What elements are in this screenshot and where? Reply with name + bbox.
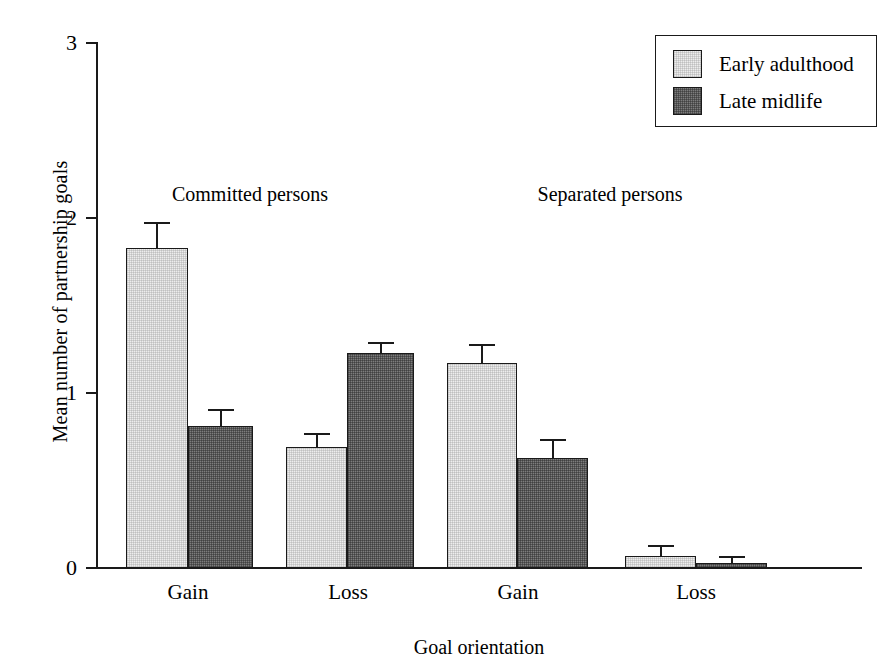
legend: Early adulthood Late midlife (655, 35, 877, 127)
error-bar-stem (156, 222, 158, 248)
bar-loss-3-series-0 (625, 556, 696, 568)
legend-item-early-adulthood: Early adulthood (673, 50, 854, 78)
bar-loss-1-series-0 (286, 447, 347, 568)
group-header-separated: Separated persons (480, 183, 740, 206)
error-bar-cap (208, 409, 234, 411)
error-bar-cap (144, 222, 170, 224)
bar-gain-2-series-0 (447, 363, 517, 568)
x-axis-category-label: Gain (448, 580, 588, 605)
bar-gain-2-series-1 (517, 458, 588, 568)
error-bar-cap (648, 545, 674, 547)
x-axis-category-label: Loss (278, 580, 418, 605)
bar-gain-0-series-1 (188, 426, 253, 568)
bar-gain-0-series-0 (126, 248, 188, 568)
error-bar-cap (469, 344, 495, 346)
chart-figure: 0123 Mean number of partnership goals Go… (0, 0, 892, 671)
group-header-committed: Committed persons (120, 183, 380, 206)
x-axis-category-label: Gain (118, 580, 258, 605)
error-bar-cap (368, 342, 394, 344)
legend-swatch-icon-early-adulthood (673, 50, 702, 78)
legend-swatch-icon-late-midlife (673, 87, 702, 115)
bar-loss-3-series-1 (696, 563, 767, 568)
bar-loss-1-series-1 (347, 353, 414, 568)
legend-label-late-midlife: Late midlife (719, 89, 822, 114)
x-axis-category-label: Loss (626, 580, 766, 605)
error-bar-stem (316, 433, 318, 447)
error-bar-cap (304, 433, 330, 435)
error-bar-stem (220, 409, 222, 427)
error-bar-stem (481, 344, 483, 363)
legend-item-late-midlife: Late midlife (673, 87, 822, 115)
error-bar-cap (540, 439, 566, 441)
error-bar-stem (552, 439, 554, 458)
error-bar-cap (719, 556, 745, 558)
legend-label-early-adulthood: Early adulthood (719, 52, 854, 77)
